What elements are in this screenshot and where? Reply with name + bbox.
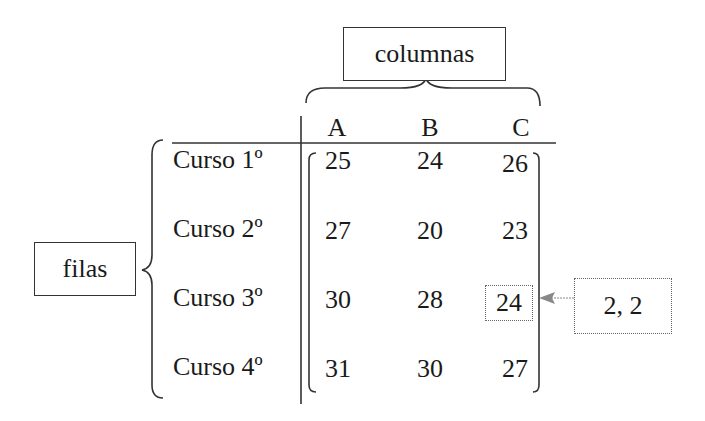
column-header-c: C (501, 113, 541, 143)
matrix-cell: 25 (316, 146, 360, 176)
matrix-cell: 27 (316, 216, 360, 246)
matrix-cell: 28 (408, 285, 452, 315)
matrix-left-bracket (309, 153, 316, 392)
row-header-2: Curso 2º (173, 214, 263, 244)
columns-label-box: columnas (343, 27, 506, 81)
matrix-cell: 23 (493, 216, 537, 246)
matrix-cell: 20 (408, 216, 452, 246)
rows-label: filas (63, 254, 108, 284)
index-label-box: 2, 2 (574, 278, 672, 334)
matrix-cell: 27 (493, 354, 537, 384)
row-header-3: Curso 3º (173, 283, 263, 313)
row-header-4: Curso 4º (173, 352, 263, 382)
matrix-cell: 26 (493, 149, 537, 179)
rows-brace (142, 140, 163, 398)
rows-label-box: filas (34, 242, 136, 296)
columns-brace (306, 78, 540, 106)
row-header-1: Curso 1º (173, 145, 263, 175)
matrix-cell: 30 (408, 354, 452, 384)
columns-label: columnas (375, 39, 475, 69)
highlighted-cell: 24 (485, 285, 533, 321)
matrix-cell: 30 (316, 285, 360, 315)
matrix-cell: 31 (316, 354, 360, 384)
column-header-b: B (410, 113, 450, 143)
index-label: 2, 2 (604, 291, 643, 321)
column-header-a: A (317, 113, 357, 143)
matrix-cell: 24 (408, 146, 452, 176)
